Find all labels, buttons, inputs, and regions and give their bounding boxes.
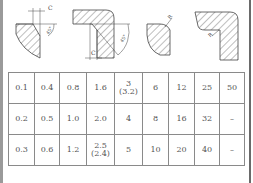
table-cell: 0.3 [9, 135, 35, 166]
table-cell: – [220, 135, 245, 166]
table-cell: 10 [143, 135, 169, 166]
table-cell: 3(3.2) [115, 73, 143, 104]
chamfer-bore-figure: C 45° [73, 10, 130, 60]
round-inner-corner-figure: R [195, 12, 238, 60]
round-shaft-figure: R [147, 13, 173, 55]
table-cell: 25 [195, 73, 220, 104]
table-cell: 2.5(2.4) [87, 135, 115, 166]
table-row: 0.2 0.5 1.0 2.0 4 8 16 32 – [9, 104, 245, 135]
table-row: 0.3 0.6 1.2 2.5(2.4) 5 10 20 40 – [9, 135, 245, 166]
table-cell: 50 [220, 73, 245, 104]
table-cell: 0.1 [9, 73, 35, 104]
chamfer-dim-label: C [48, 4, 53, 11]
table-cell: 4 [115, 104, 143, 135]
table-cell: 2.0 [87, 104, 115, 135]
table-cell: 6 [143, 73, 169, 104]
chamfer-shaft-figure: C 45° [16, 4, 57, 58]
table-cell: 1.0 [60, 104, 87, 135]
table-cell: 8 [143, 104, 169, 135]
table-cell: 40 [195, 135, 220, 166]
table-cell: 1.6 [87, 73, 115, 104]
table-cell: 12 [169, 73, 195, 104]
table-cell: 1.2 [60, 135, 87, 166]
table-cell: 5 [115, 135, 143, 166]
table-cell: 0.2 [9, 104, 35, 135]
table-cell: 0.4 [35, 73, 60, 104]
table-row: 0.1 0.4 0.8 1.6 3(3.2) 6 12 25 50 [9, 73, 245, 104]
chamfer-and-round-diagrams: C 45° C 45° R R [0, 0, 253, 70]
table-cell: – [220, 104, 245, 135]
table-cell: 0.6 [35, 135, 60, 166]
table-cell: 0.5 [35, 104, 60, 135]
table-cell: 20 [169, 135, 195, 166]
svg-text:R: R [207, 31, 214, 38]
table-cell: 32 [195, 104, 220, 135]
cell-alt-value: (2.4) [87, 150, 114, 158]
cell-alt-value: (3.2) [115, 88, 142, 96]
svg-text:R: R [166, 13, 173, 20]
table-cell: 0.8 [60, 73, 87, 104]
chamfer-round-values-table: 0.1 0.4 0.8 1.6 3(3.2) 6 12 25 50 0.2 0.… [8, 72, 245, 166]
table-cell: 16 [169, 104, 195, 135]
svg-text:45°: 45° [45, 26, 53, 35]
svg-text:45°: 45° [119, 34, 127, 43]
svg-text:C: C [91, 49, 96, 56]
